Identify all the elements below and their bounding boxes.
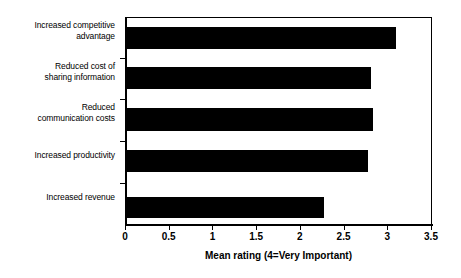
category-label: Reduced communication costs (0, 102, 115, 123)
y-axis-tick (120, 58, 125, 59)
x-axis-tick (256, 226, 257, 230)
x-axis-title: Mean rating (4=Very Important) (125, 250, 432, 261)
x-axis-tick (431, 226, 432, 230)
category-label-line: Increased competitive (0, 20, 115, 31)
x-axis-tick (125, 226, 126, 230)
category-label: Increased productivity (0, 150, 115, 161)
bar (126, 67, 371, 89)
category-label: Increased revenue (0, 192, 115, 203)
bar (126, 108, 373, 131)
y-axis-tick (120, 99, 125, 100)
category-label-line: Reduced (0, 102, 115, 113)
y-axis-tick (120, 183, 125, 184)
category-label: Increased competitive advantage (0, 20, 115, 41)
x-axis-tick (344, 226, 345, 230)
bar (126, 197, 324, 218)
x-axis-tick (387, 226, 388, 230)
category-label-line: communication costs (0, 113, 115, 124)
bar (126, 27, 396, 49)
category-label-line: sharing information (0, 72, 115, 83)
x-axis-tick-label: 1.5 (236, 231, 276, 242)
y-axis-tick (120, 141, 125, 142)
bar-series (126, 18, 432, 224)
x-axis-tick-label: 0 (105, 231, 145, 242)
x-axis-tick (300, 226, 301, 230)
x-axis-tick-label: 2 (280, 231, 320, 242)
x-axis-tick-label: 2.5 (324, 231, 364, 242)
x-axis-tick (212, 226, 213, 230)
category-label-line: Increased revenue (0, 192, 115, 203)
x-axis-tick (169, 226, 170, 230)
category-label: Reduced cost of sharing information (0, 61, 115, 82)
category-label-line: Reduced cost of (0, 61, 115, 72)
bar (126, 150, 368, 172)
category-label-line: advantage (0, 31, 115, 42)
x-axis-tick-label: 3 (367, 231, 407, 242)
category-label-line: Increased productivity (0, 150, 115, 161)
category-axis-labels: Increased competitive advantage Reduced … (0, 17, 120, 225)
x-axis-tick-label: 1 (192, 231, 232, 242)
horizontal-bar-chart: Increased competitive advantage Reduced … (0, 0, 461, 278)
x-axis-tick-label: 0.5 (149, 231, 189, 242)
x-axis-tick-label: 3.5 (411, 231, 451, 242)
